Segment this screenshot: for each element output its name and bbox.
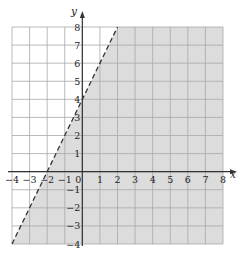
x-tick-label: −3 — [23, 174, 37, 185]
x-tick-label: 0 — [75, 174, 81, 185]
y-tick-label: 8 — [74, 22, 80, 33]
x-tick-label: 7 — [202, 174, 208, 185]
x-tick-label: −4 — [5, 174, 19, 185]
y-axis-label: y — [70, 5, 78, 17]
inequality-graph: −4−3−2−1012345678−4−3−2−112345678 x y — [0, 0, 244, 253]
y-tick-label: −3 — [66, 220, 80, 231]
y-tick-label: −2 — [66, 202, 80, 213]
y-tick-label: 3 — [74, 112, 80, 123]
y-tick-label: 1 — [74, 148, 80, 159]
y-axis-arrow-icon — [80, 11, 85, 18]
x-tick-label: 3 — [132, 174, 138, 185]
x-tick-label: 2 — [114, 174, 120, 185]
y-tick-label: 4 — [74, 94, 80, 105]
x-tick-label: 1 — [97, 174, 103, 185]
x-tick-label: 6 — [185, 174, 191, 185]
x-tick-label: −2 — [40, 174, 54, 185]
y-tick-label: −4 — [66, 239, 80, 250]
y-tick-label: 2 — [74, 130, 80, 141]
y-tick-label: 6 — [74, 58, 80, 69]
x-tick-label: 4 — [150, 174, 156, 185]
y-tick-label: 5 — [74, 76, 80, 87]
x-axis-label: x — [230, 168, 236, 180]
x-tick-label: −1 — [58, 174, 72, 185]
y-tick-label: 7 — [74, 40, 80, 51]
x-tick-label: 5 — [167, 174, 173, 185]
y-tick-label: −1 — [66, 184, 80, 195]
x-tick-label: 8 — [220, 174, 226, 185]
